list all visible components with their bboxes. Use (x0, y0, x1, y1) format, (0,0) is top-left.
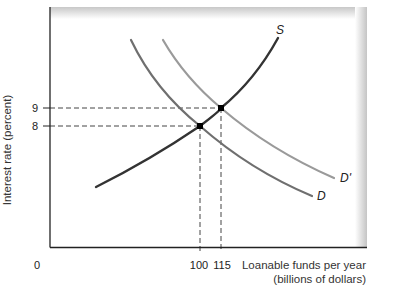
equilibrium-point-1 (197, 123, 203, 129)
frame-top-shade (50, 7, 367, 19)
x-tick-label-115: 115 (213, 259, 231, 271)
x-axis-title-line2: (billions of dollars) (273, 273, 366, 285)
frame-right-shade (355, 7, 367, 247)
supply-label: S (276, 23, 284, 37)
demand-shifted-label: D' (340, 171, 352, 185)
demand-label: D (317, 189, 326, 203)
demand-shifted-curve (163, 40, 334, 178)
equilibrium-point-2 (218, 105, 224, 111)
y-tick-label-8: 8 (32, 120, 38, 132)
loanable-funds-chart: 9 8 0 100 115 S D D' Interest rate (perc… (0, 0, 398, 292)
origin-label: 0 (34, 259, 40, 271)
y-tick-label-9: 9 (32, 102, 38, 114)
x-axis-title-line1: Loanable funds per year (242, 259, 366, 271)
y-axis-title: Interest rate (percent) (1, 95, 13, 206)
x-tick-label-100: 100 (190, 259, 208, 271)
